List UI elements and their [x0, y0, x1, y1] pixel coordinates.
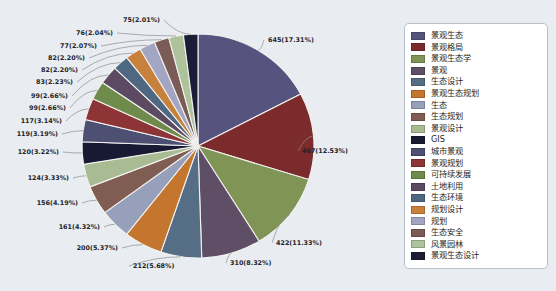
legend-color-swatch — [411, 113, 425, 121]
legend-item-label: 生态环境 — [431, 192, 463, 204]
pie-slice-label: 212(5.68%) — [133, 262, 174, 270]
legend-item[interactable]: 风景园林 — [411, 239, 542, 251]
legend-item[interactable]: 生态设计 — [411, 76, 542, 88]
pie-slice-label: 82(2.20%) — [41, 66, 78, 74]
legend-item-label: 生态安全 — [431, 227, 463, 239]
legend-item-label: 风景园林 — [431, 239, 463, 251]
legend-item-label: 景观格局 — [431, 42, 463, 54]
legend-list: 景观生态景观格局景观生态学景观生态设计景观生态规划生态生态规划景观设计GIS城市… — [411, 30, 542, 262]
legend-item[interactable]: 景观生态规划 — [411, 88, 542, 100]
pie-slice-label: 161(4.32%) — [59, 223, 100, 231]
label-leader-line — [104, 224, 115, 227]
legend-color-swatch — [411, 78, 425, 86]
pie-slice-label: 310(8.32%) — [230, 259, 271, 267]
legend-color-swatch — [411, 194, 425, 202]
legend-item-label: 规划 — [431, 216, 447, 228]
label-leader-line — [258, 40, 264, 50]
pie-slice-label: 76(2.04%) — [76, 29, 113, 37]
label-leader-line — [164, 20, 191, 34]
pie-slice-label: 119(3.19%) — [17, 130, 58, 138]
legend-item[interactable]: 景观生态学 — [411, 53, 542, 65]
pie-slice-label: 645(17.31%) — [268, 36, 314, 44]
legend-item[interactable]: 生态环境 — [411, 192, 542, 204]
pie-slice-label: 99(2.66%) — [29, 104, 66, 112]
legend-item[interactable]: 规划设计 — [411, 204, 542, 216]
label-leader-line — [62, 131, 83, 134]
pie-slice-label: 124(3.33%) — [28, 174, 69, 182]
legend-item-label: 景观生态 — [431, 30, 463, 42]
legend-item-label: 生态规划 — [431, 111, 463, 123]
legend-item[interactable]: 景观生态 — [411, 30, 542, 42]
legend-color-swatch — [411, 55, 425, 63]
legend-color-swatch — [411, 183, 425, 191]
legend-color-swatch — [411, 148, 425, 156]
pie-slice-label: 156(4.19%) — [37, 199, 78, 207]
legend-color-swatch — [411, 43, 425, 51]
pie-slice-label: 117(3.14%) — [21, 117, 62, 125]
legend-color-swatch — [411, 171, 425, 179]
pie-slice-label: 422(11.33%) — [276, 239, 322, 247]
legend-color-swatch — [411, 159, 425, 167]
chart-figure: 645(17.31%)467(12.53%)422(11.33%)310(8.3… — [0, 0, 556, 291]
legend-item[interactable]: 生态安全 — [411, 227, 542, 239]
legend-item[interactable]: 规划 — [411, 216, 542, 228]
label-leader-line — [122, 245, 143, 248]
legend-item-label: 生态 — [431, 100, 447, 112]
pie-chart-svg: 645(17.31%)467(12.53%)422(11.33%)310(8.3… — [0, 0, 400, 291]
legend-color-swatch — [411, 101, 425, 109]
pie-slice-label: 120(3.22%) — [18, 148, 59, 156]
legend-color-swatch — [411, 229, 425, 237]
label-leader-line — [73, 176, 86, 178]
legend-color-swatch — [411, 240, 425, 248]
legend-item-label: 城市景观 — [431, 146, 463, 158]
pie-slice-label: 200(5.37%) — [77, 244, 118, 252]
legend-item-label: 景观 — [431, 65, 447, 77]
legend-item[interactable]: 可持续发展 — [411, 169, 542, 181]
label-leader-line — [82, 200, 97, 203]
legend-color-swatch — [411, 32, 425, 40]
legend-item-label: 景观生态规划 — [431, 88, 479, 100]
pie-chart-area: 645(17.31%)467(12.53%)422(11.33%)310(8.3… — [0, 0, 400, 291]
legend-item-label: 景观设计 — [431, 123, 463, 135]
legend-item[interactable]: 生态 — [411, 100, 542, 112]
pie-slice-label: 83(2.23%) — [36, 78, 73, 86]
pie-slice-label: 82(2.20%) — [48, 54, 85, 62]
legend-item[interactable]: 景观设计 — [411, 123, 542, 135]
legend-item-label: 景观规划 — [431, 158, 463, 170]
legend-item[interactable]: 景观格局 — [411, 42, 542, 54]
label-leader-line — [117, 33, 176, 36]
legend-item-label: 规划设计 — [431, 204, 463, 216]
legend-color-swatch — [411, 90, 425, 98]
legend-item-label: 可持续发展 — [431, 169, 471, 181]
legend-item[interactable]: 土地利用 — [411, 181, 542, 193]
pie-slice-label: 467(12.53%) — [302, 147, 348, 155]
legend-item-label: 土地利用 — [431, 181, 463, 193]
legend-item[interactable]: 城市景观 — [411, 146, 542, 158]
label-leader-line — [63, 152, 82, 153]
legend-item[interactable]: 景观生态设计 — [411, 250, 542, 262]
legend-item-label: GIS — [431, 134, 445, 146]
legend-color-swatch — [411, 67, 425, 75]
legend-color-swatch — [411, 252, 425, 260]
legend-item[interactable]: 景观规划 — [411, 158, 542, 170]
legend-item-label: 生态设计 — [431, 76, 463, 88]
legend-item-label: 景观生态学 — [431, 53, 471, 65]
pie-slice-label: 77(2.07%) — [60, 42, 97, 50]
legend-item[interactable]: GIS — [411, 134, 542, 146]
pie-slice-label: 75(2.01%) — [123, 16, 160, 24]
legend-item[interactable]: 景观 — [411, 65, 542, 77]
legend-item-label: 景观生态设计 — [431, 250, 479, 262]
legend: 景观生态景观格局景观生态学景观生态设计景观生态规划生态生态规划景观设计GIS城市… — [404, 23, 548, 269]
legend-item[interactable]: 生态规划 — [411, 111, 542, 123]
legend-color-swatch — [411, 206, 425, 214]
pie-slice-label: 99(2.66%) — [31, 92, 68, 100]
legend-color-swatch — [411, 217, 425, 225]
legend-color-swatch — [411, 125, 425, 133]
legend-color-swatch — [411, 136, 425, 144]
